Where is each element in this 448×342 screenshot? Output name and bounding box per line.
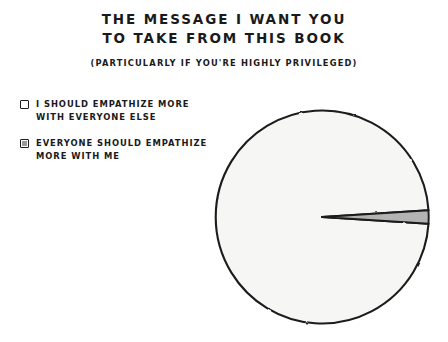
page-subtitle: (PARTICULARLY IF YOU'RE HIGHLY PRIVILEGE… (0, 58, 448, 68)
title-line-1: THE MESSAGE I WANT YOU (0, 10, 448, 29)
legend-swatch-icon (20, 100, 29, 109)
legend-item-label: I SHOULD EMPATHIZE MORE WITH EVERYONE EL… (36, 98, 189, 123)
chart-legend: I SHOULD EMPATHIZE MORE WITH EVERYONE EL… (20, 98, 225, 176)
legend-item-empathize-with-everyone[interactable]: I SHOULD EMPATHIZE MORE WITH EVERYONE EL… (20, 98, 225, 123)
pie-chart-svg (214, 104, 440, 332)
legend-item-label: EVERYONE SHOULD EMPATHIZE MORE WITH ME (36, 137, 207, 162)
legend-swatch-icon (20, 139, 29, 148)
legend-label-line-1: EVERYONE SHOULD EMPATHIZE (36, 138, 207, 148)
page-title: THE MESSAGE I WANT YOU TO TAKE FROM THIS… (0, 10, 448, 48)
legend-label-line-2: WITH EVERYONE ELSE (36, 111, 189, 124)
legend-label-line-2: MORE WITH ME (36, 150, 207, 163)
legend-label-line-1: I SHOULD EMPATHIZE MORE (36, 99, 189, 109)
pie-chart (214, 104, 440, 332)
legend-item-everyone-empathize-with-me[interactable]: EVERYONE SHOULD EMPATHIZE MORE WITH ME (20, 137, 225, 162)
title-line-2: TO TAKE FROM THIS BOOK (0, 29, 448, 48)
